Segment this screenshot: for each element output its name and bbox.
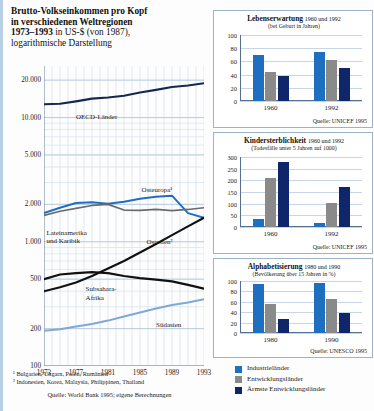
panel-lebenserwartung: Lebenserwartung 1960 und 1992 (bei Gebur… xyxy=(213,10,373,128)
gridline xyxy=(240,101,362,102)
panel-source-kindersterblichkeit: Quelle: UNICEF 1995 xyxy=(313,244,367,250)
bar-y-axis xyxy=(240,35,241,101)
curve-label-osteuropa: Osteuropa¹ xyxy=(142,186,173,194)
gridline xyxy=(240,281,362,282)
bar-group-label: 1992 xyxy=(325,104,339,112)
bar-group-label: 1992 xyxy=(325,230,339,238)
bar-y-tick-label: 300 xyxy=(215,154,237,161)
bar-alphabetisierung-1990--rmste-entwicklungsl-nder xyxy=(339,313,350,333)
bar-plot-alphabetisierung: 02040608010019801990 xyxy=(240,281,362,333)
bar-y-tick-label: 100 xyxy=(215,32,237,39)
y-axis-labels: 20.00010.0005.0002.0001.000500200100 xyxy=(7,66,41,366)
bar-y-tick-label: 0 xyxy=(215,98,237,105)
plot-area: OECD-LänderOsteuropa¹Lateinamerikaund Ka… xyxy=(44,66,204,366)
panel-subtitle-lebenserwartung: (bei Geburt in Jahren) xyxy=(218,23,370,29)
main-chart-panel: Brutto-Volkseinkommen pro Kopf in versch… xyxy=(7,4,212,407)
legend-label: Ärmste Entwicklungsländer xyxy=(247,385,325,393)
bar-y-tick-label: 0 xyxy=(215,330,237,337)
bar-y-tick-label: 80 xyxy=(215,288,237,295)
y-tick-label: 1.000 xyxy=(9,238,41,246)
panel-subtitle-kindersterblichkeit: (Todesfälle unter 5 Jahren auf 1000) xyxy=(218,145,370,151)
y-tick-label: 20.000 xyxy=(9,76,41,84)
bar-y-axis xyxy=(240,281,241,333)
y-tick-label: 200 xyxy=(9,325,41,333)
bar-lebenserwartung-1960-industriel-nder xyxy=(253,55,264,101)
bar-alphabetisierung-1980-entwicklungsl-nder xyxy=(265,304,276,333)
gridline xyxy=(240,35,362,36)
footnote-1: ¹ Bulgarien, Ungarn, Polen, Rumänien xyxy=(13,370,211,378)
gridline xyxy=(240,157,362,158)
infographic-page: Brutto-Volkseinkommen pro Kopf in versch… xyxy=(0,0,374,411)
bar-kindersterblichkeit-1960--rmste-entwicklungsl-nder xyxy=(278,162,289,227)
line-chart: 20.00010.0005.0002.0001.000500200100 OEC… xyxy=(7,56,212,361)
legend-item: Entwicklungsländer xyxy=(235,375,374,386)
panel-source-alphabetisierung: Quelle: UNESCO 1995 xyxy=(310,348,367,354)
curve-label-s-dasien: Südasien xyxy=(156,321,181,329)
curve-label-subsahara-afrika: Subsahara-Afrika xyxy=(86,285,117,301)
bar-y-tick-label: 200 xyxy=(215,177,237,184)
legend-label: Industrieländer xyxy=(247,364,289,372)
bar-lebenserwartung-1960--rmste-entwicklungsl-nder xyxy=(278,76,289,101)
bar-kindersterblichkeit-1992-industriel-nder xyxy=(314,223,325,227)
curve-label-oecd-l-nder: OECD-Länder xyxy=(76,113,117,121)
panel-kindersterblichkeit: Kindersterblichkeit 1960 und 1992 (Todes… xyxy=(213,132,373,254)
panel-title-text: Alphabetisierung xyxy=(248,262,303,271)
legend-item: Industrieländer xyxy=(235,364,374,375)
legend-swatch-icon xyxy=(235,387,242,394)
legend-swatch-icon xyxy=(235,376,242,383)
y-tick-label: 500 xyxy=(9,275,41,283)
y-tick-label: 10.000 xyxy=(9,114,41,122)
bar-y-tick-label: 50 xyxy=(215,212,237,219)
bar-plot-lebenserwartung: 02040608010019601992 xyxy=(240,35,362,101)
gridline xyxy=(240,333,362,334)
panel-title-years: 1960 und 1992 xyxy=(308,138,344,144)
main-chart-source: Quelle: World Bank 1995; eigene Berechnu… xyxy=(7,391,212,398)
bar-lebenserwartung-1992--rmste-entwicklungsl-nder xyxy=(339,68,350,101)
bar-y-tick-label: 60 xyxy=(215,58,237,65)
legend-label: Entwicklungsländer xyxy=(247,375,303,383)
panel-title-lebenserwartung: Lebenserwartung 1960 und 1992 xyxy=(218,14,370,23)
panel-title-years: 1960 und 1992 xyxy=(305,16,341,22)
y-tick-label: 5.000 xyxy=(9,151,41,159)
bar-y-tick-label: 40 xyxy=(215,309,237,316)
bar-kindersterblichkeit-1960-entwicklungsl-nder xyxy=(265,178,276,227)
gridline xyxy=(240,180,362,181)
bar-group-label: 1960 xyxy=(264,104,278,112)
bar-alphabetisierung-1980--rmste-entwicklungsl-nder xyxy=(278,319,289,333)
panel-alphabetisierung: Alphabetisierung 1980 und 1990 (Bevölker… xyxy=(213,258,373,358)
bar-alphabetisierung-1990-entwicklungsl-nder xyxy=(326,299,337,333)
panel-subtitle-alphabetisierung: (Bevölkerung über 15 Jahren in %) xyxy=(218,271,370,277)
y-tick-label: 2.000 xyxy=(9,200,41,208)
bar-alphabetisierung-1980-industriel-nder xyxy=(253,284,264,333)
bar-y-tick-label: 150 xyxy=(215,189,237,196)
curve-label-ostasien: Ostasien² xyxy=(146,238,172,246)
panel-title-alphabetisierung: Alphabetisierung 1980 und 1990 xyxy=(218,262,370,271)
curve-label-lateinamerika-und-karibik: Lateinamerikaund Karibik xyxy=(46,229,86,245)
footnote-2: ² Indonesien, Korea, Malaysia, Philippin… xyxy=(13,378,211,386)
gridline xyxy=(240,48,362,49)
panel-title-kindersterblichkeit: Kindersterblichkeit 1960 und 1992 xyxy=(218,136,370,145)
bar-alphabetisierung-1990-industriel-nder xyxy=(314,283,325,333)
bar-y-tick-label: 100 xyxy=(215,200,237,207)
panel-source-lebenserwartung: Quelle: UNICEF 1995 xyxy=(313,118,367,124)
gridline xyxy=(240,169,362,170)
legend-item: Ärmste Entwicklungsländer xyxy=(235,385,374,396)
bar-lebenserwartung-1992-industriel-nder xyxy=(314,52,325,102)
bar-lebenserwartung-1992-entwicklungsl-nder xyxy=(326,60,337,101)
footnotes: ¹ Bulgarien, Ungarn, Polen, Rumänien ² I… xyxy=(13,370,211,385)
panel-title-years: 1980 und 1990 xyxy=(304,264,340,270)
bar-lebenserwartung-1960-entwicklungsl-nder xyxy=(265,72,276,101)
bar-y-tick-label: 250 xyxy=(215,165,237,172)
title-line-3-bold: 1973–1993 xyxy=(11,27,53,37)
bar-kindersterblichkeit-1992-entwicklungsl-nder xyxy=(326,203,337,227)
page-title: Brutto-Volkseinkommen pro Kopf in versch… xyxy=(11,6,209,48)
bar-y-axis xyxy=(240,157,241,227)
bar-y-tick-label: 80 xyxy=(215,45,237,52)
bar-group-label: 1960 xyxy=(264,230,278,238)
bar-y-tick-label: 20 xyxy=(215,84,237,91)
title-line-3-rest: in US-$ (von 1987), xyxy=(53,27,130,37)
bar-y-tick-label: 0 xyxy=(215,224,237,231)
gridline xyxy=(240,227,362,228)
bar-y-tick-label: 40 xyxy=(215,71,237,78)
panel-title-text: Lebenserwartung xyxy=(247,14,303,23)
